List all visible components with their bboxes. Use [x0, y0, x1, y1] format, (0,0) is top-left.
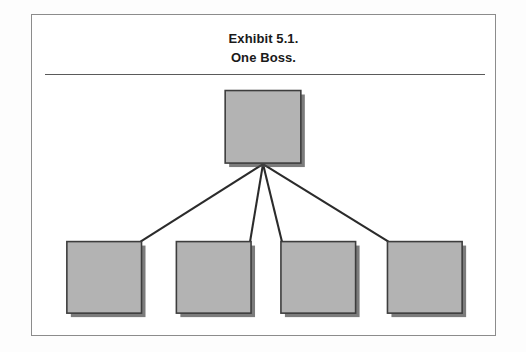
node-boss	[225, 91, 305, 168]
connector-layer	[141, 164, 389, 242]
connector-line-1	[141, 164, 263, 242]
node-box	[225, 91, 301, 164]
node-subordinate-4	[387, 242, 466, 318]
node-layer	[67, 91, 466, 318]
node-subordinate-3	[281, 242, 360, 318]
org-hierarchy-diagram	[32, 15, 495, 335]
node-subordinate-2	[176, 242, 255, 318]
node-box	[387, 242, 462, 314]
connector-line-2	[250, 164, 263, 242]
node-box	[281, 242, 356, 314]
diagram-canvas	[32, 15, 495, 335]
node-subordinate-1	[67, 242, 146, 318]
exhibit-frame: Exhibit 5.1. One Boss.	[31, 14, 496, 336]
connector-line-3	[263, 164, 282, 242]
node-box	[67, 242, 142, 314]
connector-line-4	[263, 164, 388, 242]
node-box	[176, 242, 251, 314]
